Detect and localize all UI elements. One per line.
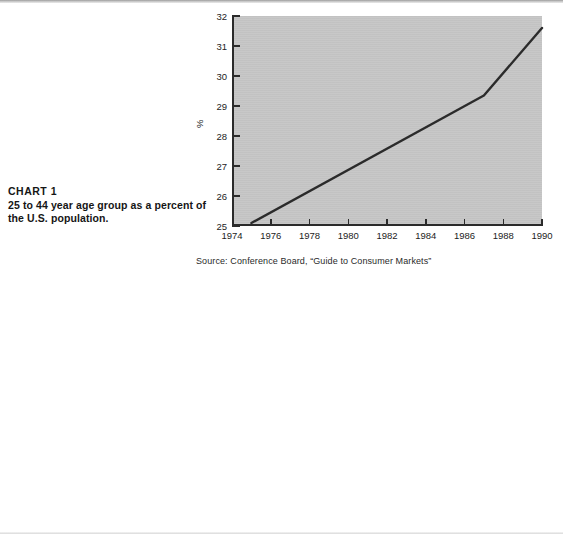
x-tick-label: 1988	[493, 230, 514, 241]
chart-1-source-note: Source: Conference Board, “Guide to Cons…	[196, 256, 431, 266]
x-tick-label: 1978	[299, 230, 320, 241]
chart-1-caption-title: CHART 1	[8, 185, 208, 199]
x-tick-label: 1990	[531, 230, 552, 241]
y-tick-label: 27	[216, 161, 227, 172]
y-tick-label: 31	[216, 41, 227, 52]
y-tick-label: 28	[216, 131, 227, 142]
y-tick-label: 26	[216, 191, 227, 202]
y-tick-label: 32	[216, 11, 227, 22]
x-tick-label: 1982	[376, 230, 397, 241]
y-tick-label: 29	[216, 101, 227, 112]
chart-1-caption-text: 25 to 44 year age group as a percent of …	[8, 199, 208, 226]
x-tick-label: 1976	[260, 230, 281, 241]
x-tick-label: 1980	[338, 230, 359, 241]
chart-1-y-axis-title: %	[194, 120, 205, 128]
x-tick-label: 1984	[415, 230, 436, 241]
figure-chart-1: CHART 1 25 to 44 year age group as a per…	[0, 0, 563, 275]
x-tick-label: 1974	[221, 230, 242, 241]
chart-1-caption: CHART 1 25 to 44 year age group as a per…	[8, 185, 208, 226]
x-tick-label: 1986	[454, 230, 475, 241]
chart-1-series-line	[232, 16, 542, 226]
series-polyline	[251, 28, 542, 223]
y-tick-label: 30	[216, 71, 227, 82]
chart-1-plot: % 25262728293031321974197619781980198219…	[232, 16, 542, 226]
figure-chart-2: CHART 2 Number of U.S. households by yea…	[0, 272, 563, 534]
